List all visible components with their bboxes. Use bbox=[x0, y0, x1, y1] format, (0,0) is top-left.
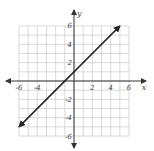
x-tick-label: 6 bbox=[127, 84, 132, 92]
x-axis-label: x bbox=[142, 83, 147, 92]
x-tick-label: -6 bbox=[16, 84, 23, 92]
x-tick-label: -4 bbox=[34, 84, 41, 92]
y-tick-label: -4 bbox=[65, 114, 72, 122]
y-tick-label: -6 bbox=[65, 133, 72, 141]
y-axis-label: y bbox=[76, 9, 82, 18]
x-tick-label: 4 bbox=[107, 84, 112, 92]
coordinate-plane: -6-4246642-2-4-6xy bbox=[0, 0, 154, 151]
axes bbox=[6, 10, 146, 148]
y-tick-label: 2 bbox=[67, 59, 73, 67]
y-tick-label: -2 bbox=[65, 96, 72, 104]
y-tick-label: 6 bbox=[68, 22, 73, 30]
y-tick-label: 4 bbox=[67, 41, 72, 49]
tick-labels: -6-4246642-2-4-6xy bbox=[16, 9, 147, 141]
x-tick-label: 2 bbox=[89, 84, 95, 92]
